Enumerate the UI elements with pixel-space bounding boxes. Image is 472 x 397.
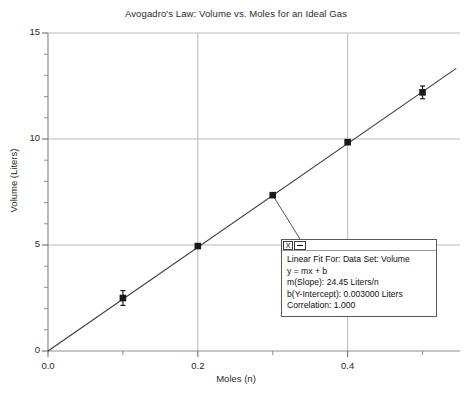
y-tick-label: 15 [14,26,40,37]
plot-canvas [0,0,472,397]
linear-fit-callout[interactable]: X Linear Fit For: Data Set: Volumey = mx… [281,239,437,317]
callout-text-line: y = mx + b [287,266,431,278]
data-point-marker[interactable] [195,243,202,250]
callout-text-line: m(Slope): 24.45 Liters/n [287,277,431,289]
x-axis-label: Moles (n) [0,373,472,384]
callout-leader-line [273,195,300,239]
y-axis-label: Volume (Liters) [8,121,19,241]
data-point-marker[interactable] [120,295,127,302]
callout-connector [273,195,300,239]
data-point-marker[interactable] [344,139,351,146]
x-tick-label: 0.0 [28,360,68,371]
callout-text-line: b(Y-Intercept): 0.003000 Liters [287,289,431,301]
callout-text-line: Correlation: 1.000 [287,300,431,312]
data-point-marker[interactable] [269,192,276,199]
close-icon[interactable]: X [283,241,293,250]
x-tick-label: 0.4 [328,360,368,371]
x-tick-label: 0.2 [178,360,218,371]
chart-container: Avogadro's Law: Volume vs. Moles for an … [0,0,472,397]
y-tick-label: 0 [14,344,40,355]
callout-text-line: Linear Fit For: Data Set: Volume [287,254,431,266]
callout-titlebar[interactable]: X [282,240,436,251]
data-point-marker[interactable] [419,89,426,96]
minimize-icon[interactable] [294,241,306,250]
callout-body: Linear Fit For: Data Set: Volumey = mx +… [282,251,436,316]
